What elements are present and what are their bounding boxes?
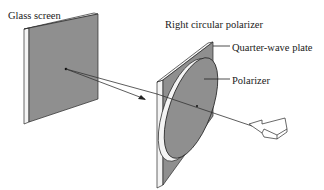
glass-screen: [24, 13, 98, 124]
right-circular-polarizer-label: Right circular polarizer: [165, 20, 263, 31]
right-circular-polarizer: [147, 42, 229, 188]
light-source-arrow: [249, 118, 287, 139]
reflected-ray-arrowhead: [138, 95, 146, 100]
glass-screen-edge: [24, 28, 29, 124]
source-arrow-body: [249, 118, 287, 135]
glass-screen-face: [29, 14, 98, 122]
glass-screen-label: Glass screen: [8, 11, 61, 22]
optics-diagram: [0, 0, 324, 190]
beam-dot: [196, 105, 198, 107]
quarter-wave-plate-label: Quarter-wave plate: [232, 43, 313, 54]
polarizer-label: Polarizer: [232, 76, 270, 87]
